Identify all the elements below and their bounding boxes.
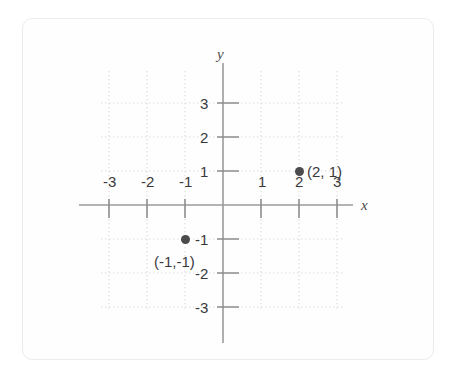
y-tick-label-2: 2 [200, 130, 208, 145]
data-point-label--1--1: (-1,-1) [154, 254, 195, 269]
x-axis-label: x [361, 198, 368, 213]
y-axis-label: y [217, 47, 224, 62]
x-tick-label-2: 2 [295, 174, 303, 189]
coordinate-plane-svg [23, 19, 434, 360]
data-point-label-2-1: (2, 1) [307, 164, 342, 179]
y-tick-label--1: -1 [195, 232, 208, 247]
x-tick-label--2: -2 [141, 174, 154, 189]
data-point--1--1 [181, 235, 190, 244]
y-tick-label-1: 1 [200, 164, 208, 179]
x-tick-label-1: 1 [258, 174, 266, 189]
x-tick-label--3: -3 [103, 174, 116, 189]
y-tick-label--2: -2 [195, 266, 208, 281]
data-point-2-1 [295, 167, 304, 176]
y-tick-label--3: -3 [195, 300, 208, 315]
x-tick-label--1: -1 [179, 174, 192, 189]
y-tick-label-3: 3 [200, 96, 208, 111]
chart-card: -3 -2 -1 1 2 3 3 2 1 -1 -2 -3 y x (2, 1)… [22, 18, 434, 360]
